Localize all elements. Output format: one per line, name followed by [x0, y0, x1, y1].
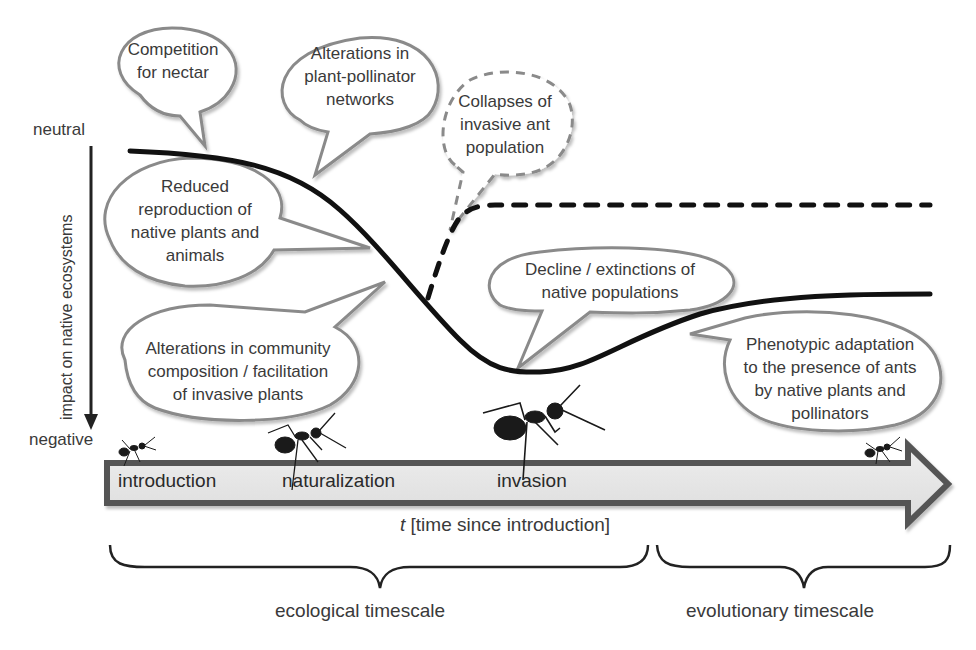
bubble-plant-pollinator-text: Alterations in plant-pollinator networks [285, 42, 435, 111]
timescale-evolutionary: evolutionary timescale [686, 600, 874, 622]
bubble-competition-text: Competition for nectar [110, 38, 236, 84]
y-axis-arrow [84, 146, 98, 430]
bubble-decline-text: Decline / extinctions of native populati… [490, 258, 730, 304]
bubble-collapse-text: Collapses of invasive ant population [445, 90, 565, 159]
bubble-adaptation-text: Phenotypic adaptation to the presence of… [720, 333, 940, 425]
bubble-reduced-reproduction-text: Reduced reproduction of native plants an… [105, 175, 285, 267]
stage-naturalization: naturalization [282, 470, 395, 492]
brace-ecological [110, 545, 648, 588]
stage-invasion: invasion [497, 470, 567, 492]
stage-introduction: introduction [118, 470, 216, 492]
y-axis-title: impact on native ecosystems [58, 215, 76, 420]
bubble-community-text: Alterations in community composition / f… [118, 337, 358, 406]
y-axis-top-label: neutral [33, 120, 85, 140]
x-axis-title: t [time since introduction] [400, 514, 610, 536]
ant-small-evolutionary [865, 437, 902, 464]
y-axis-bottom-label: negative [29, 430, 93, 450]
timescale-ecological: ecological timescale [275, 600, 445, 622]
brace-evolutionary [657, 545, 950, 588]
